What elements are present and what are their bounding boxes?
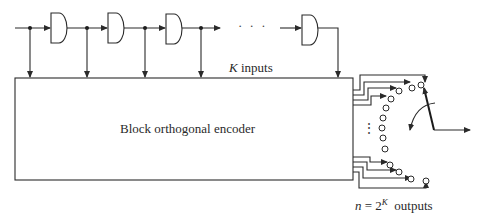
outputs-text: outputs xyxy=(388,198,433,213)
k-variable: K xyxy=(229,60,238,75)
k-inputs-label: K inputs xyxy=(229,60,273,76)
delay-stage-k xyxy=(302,15,318,45)
outputs-label: n = 2K outputs xyxy=(355,197,433,214)
equals-two: = 2 xyxy=(362,198,382,213)
inputs-text: inputs xyxy=(238,60,273,75)
delay-stage-2 xyxy=(108,13,124,43)
encoder-label: Block orthogonal encoder xyxy=(120,121,255,137)
output-ellipsis: ⋮ xyxy=(362,120,378,137)
commutator-switch xyxy=(410,88,470,130)
stage-ellipsis: · · · xyxy=(238,18,268,34)
delay-stage-3 xyxy=(166,14,182,44)
delay-stage-1 xyxy=(51,13,67,43)
switch-contacts xyxy=(379,82,429,184)
